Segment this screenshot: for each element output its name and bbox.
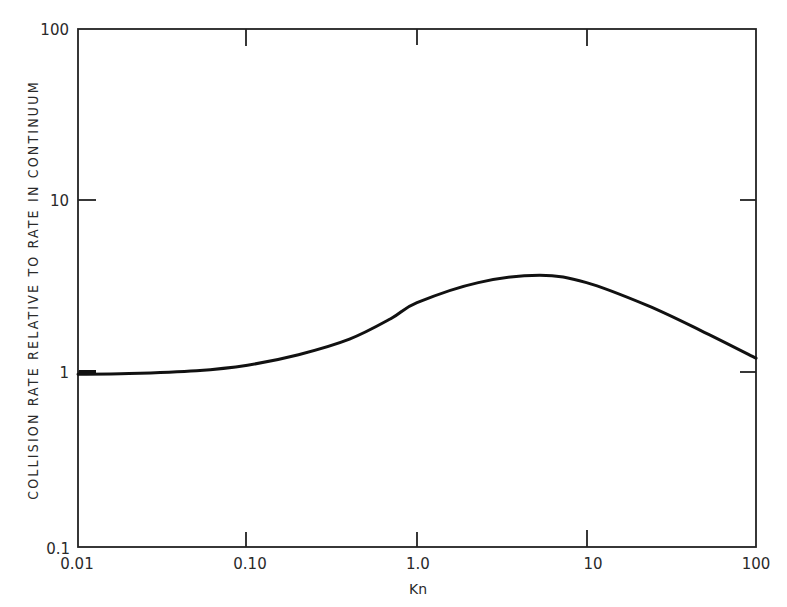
y-axis-title: COLLISION RATE RELATIVE TO RATE IN CONTI… — [25, 80, 41, 500]
bottom-ticks — [246, 530, 587, 547]
data-curve — [78, 275, 756, 374]
y-tick-100: 100 — [40, 21, 69, 39]
x-tick-0.01: 0.01 — [60, 555, 93, 573]
x-tick-1.0: 1.0 — [406, 555, 430, 573]
right-ticks — [740, 200, 756, 372]
x-tick-10: 10 — [583, 555, 602, 573]
y-tick-1: 1 — [59, 364, 69, 382]
x-tick-0.10: 0.10 — [233, 555, 266, 573]
chart: 100 10 1 0.1 0.01 0.10 1.0 10 100 Kn COL… — [0, 0, 787, 607]
x-axis-title: Kn — [409, 581, 427, 597]
y-tick-10: 10 — [50, 192, 69, 210]
top-ticks — [246, 29, 587, 46]
plot-frame — [78, 29, 756, 547]
left-ticks — [78, 200, 96, 372]
x-tick-labels: 0.01 0.10 1.0 10 100 — [60, 555, 770, 573]
y-tick-labels: 100 10 1 0.1 — [40, 21, 70, 558]
x-tick-100: 100 — [742, 555, 771, 573]
